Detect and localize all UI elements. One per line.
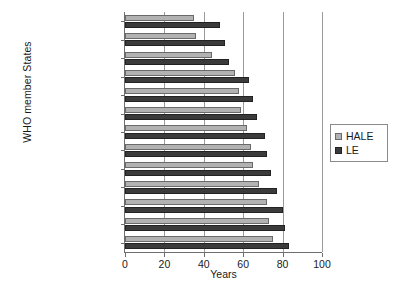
bar-row: India bbox=[125, 69, 322, 85]
x-tick-100 bbox=[322, 253, 323, 257]
legend-item-le: LE bbox=[335, 143, 383, 157]
bar-le-egypt bbox=[125, 114, 257, 120]
bar-le-south-africa bbox=[125, 59, 229, 65]
bar-le-china bbox=[125, 151, 267, 157]
x-tick-60 bbox=[243, 253, 244, 257]
bar-le-malawi bbox=[125, 40, 225, 46]
bar-hale-usa bbox=[125, 181, 259, 187]
plot-area: Sierra LeoneMalawiSouth AfricaIndiaRussi… bbox=[125, 12, 322, 252]
legend-swatch-le-icon bbox=[335, 147, 342, 154]
x-tick-40 bbox=[204, 253, 205, 257]
y-tick-12 bbox=[121, 243, 125, 244]
y-tick-0 bbox=[121, 21, 125, 22]
bar-hale-brazil bbox=[125, 125, 247, 131]
bar-row: Russian Federation bbox=[125, 87, 322, 103]
y-tick-10 bbox=[121, 206, 125, 207]
bar-row: Egypt bbox=[125, 106, 322, 122]
bar-le-australia bbox=[125, 225, 285, 231]
bar-le-sierra-leone bbox=[125, 22, 220, 28]
bar-row: Japan bbox=[125, 235, 322, 251]
bar-row: South Africa bbox=[125, 50, 322, 66]
legend-label-le: LE bbox=[346, 145, 359, 155]
bar-row: Malawi bbox=[125, 32, 322, 48]
bar-hale-sierra-leone bbox=[125, 15, 194, 21]
x-axis-title: Years bbox=[125, 268, 322, 280]
y-tick-4 bbox=[121, 95, 125, 96]
bar-hale-russian-federation bbox=[125, 88, 239, 94]
chart-legend: HALE LE bbox=[330, 124, 388, 162]
y-tick-5 bbox=[121, 114, 125, 115]
y-tick-2 bbox=[121, 58, 125, 59]
bar-row: Mexico bbox=[125, 161, 322, 177]
bar-le-brazil bbox=[125, 133, 265, 139]
bar-row: Brazil bbox=[125, 124, 322, 140]
y-tick-3 bbox=[121, 77, 125, 78]
bar-le-sweden bbox=[125, 207, 283, 213]
bar-hale-china bbox=[125, 144, 251, 150]
x-tick-20 bbox=[164, 253, 165, 257]
y-tick-9 bbox=[121, 187, 125, 188]
bar-le-india bbox=[125, 77, 249, 83]
bar-le-usa bbox=[125, 188, 277, 194]
y-tick-11 bbox=[121, 224, 125, 225]
x-tick-80 bbox=[283, 253, 284, 257]
legend-swatch-hale-icon bbox=[335, 133, 342, 140]
x-axis-line bbox=[124, 252, 322, 253]
bar-hale-malawi bbox=[125, 33, 196, 39]
legend-label-hale: HALE bbox=[346, 131, 373, 141]
bar-row: Sweden bbox=[125, 198, 322, 214]
bar-row: USA bbox=[125, 180, 322, 196]
bar-hale-mexico bbox=[125, 162, 253, 168]
bar-hale-india bbox=[125, 70, 235, 76]
y-tick-6 bbox=[121, 132, 125, 133]
bar-row: Australia bbox=[125, 217, 322, 233]
y-axis-title: WHO member States bbox=[21, 17, 33, 167]
bar-chart: WHO member States Sierra LeoneMalawiSout… bbox=[0, 0, 396, 297]
x-tick-0 bbox=[125, 253, 126, 257]
bar-row: Sierra Leone bbox=[125, 14, 322, 30]
gridline-100 bbox=[322, 12, 323, 252]
bar-le-mexico bbox=[125, 170, 271, 176]
bar-hale-sweden bbox=[125, 199, 267, 205]
bar-le-russian-federation bbox=[125, 96, 253, 102]
bar-hale-egypt bbox=[125, 107, 241, 113]
bar-hale-australia bbox=[125, 218, 269, 224]
bar-hale-japan bbox=[125, 236, 273, 242]
y-tick-1 bbox=[121, 40, 125, 41]
legend-item-hale: HALE bbox=[335, 129, 383, 143]
bar-hale-south-africa bbox=[125, 52, 212, 58]
y-tick-8 bbox=[121, 169, 125, 170]
y-tick-7 bbox=[121, 150, 125, 151]
bar-row: China bbox=[125, 143, 322, 159]
bar-le-japan bbox=[125, 243, 289, 249]
